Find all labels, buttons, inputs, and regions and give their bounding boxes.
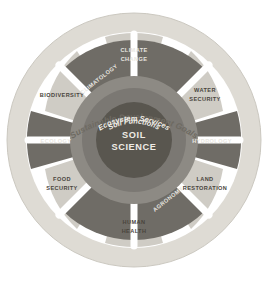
spoke-human-health-line1: HUMAN — [123, 219, 146, 225]
spoke-biodiversity-line1: BIODIVERSITY — [40, 92, 84, 98]
center-label-line2: SCIENCE — [111, 142, 156, 152]
soil-science-wheel-figure: Sustainable Development Goals Ecosystem … — [0, 0, 269, 284]
spoke-hydrology-line1: HYDROLOGY — [192, 138, 232, 144]
spoke-ecology-line1: ECOLOGY — [41, 138, 72, 144]
spoke-water-security-line1: WATER — [194, 87, 216, 93]
spoke-biodiversity-label: BIODIVERSITY — [40, 92, 84, 98]
spoke-land-restoration-line1: LAND — [196, 176, 213, 182]
spoke-food-security-line1: FOOD — [53, 176, 71, 182]
spoke-water-security-line2: SECURITY — [189, 96, 220, 102]
spoke-food-security-line2: SECURITY — [46, 185, 77, 191]
spoke-human-health-line2: HEALTH — [122, 228, 147, 234]
center-label-line1: SOIL — [122, 130, 146, 140]
spoke-hydrology-label: HYDROLOGY — [192, 138, 232, 144]
spoke-climate-change-line1: CLIMATE — [120, 47, 147, 53]
wheel-diagram: Sustainable Development Goals Ecosystem … — [0, 0, 269, 284]
spoke-ecology-label: ECOLOGY — [41, 138, 72, 144]
spoke-climate-change-line2: CHANGE — [121, 56, 148, 62]
spoke-land-restoration-line2: RESTORATION — [183, 185, 228, 191]
